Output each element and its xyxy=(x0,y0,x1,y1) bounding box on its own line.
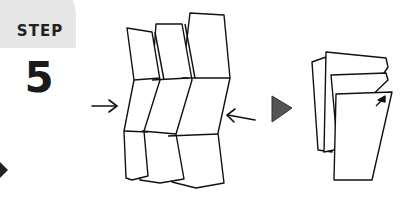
step-diagram: STEP 5 xyxy=(0,0,400,204)
folded-booklet xyxy=(312,52,392,180)
right-pointing-arrow-icon xyxy=(92,100,117,112)
play-triangle-icon xyxy=(272,96,292,122)
zigzag-folded-paper xyxy=(124,13,230,188)
left-pointing-arrow-icon xyxy=(227,109,255,122)
partial-arrow-icon xyxy=(0,162,8,178)
illustration xyxy=(0,0,400,204)
